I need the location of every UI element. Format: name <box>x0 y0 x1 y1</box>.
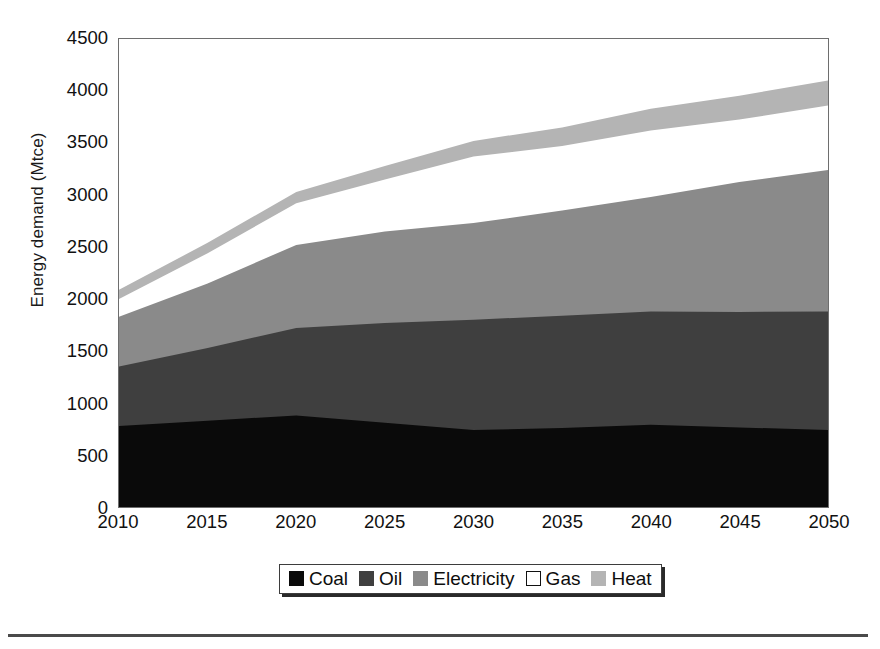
chart-legend: CoalOilElectricityGasHeat <box>279 564 662 594</box>
plot-area <box>118 38 829 508</box>
legend-item-coal[interactable]: Coal <box>289 569 348 588</box>
x-tick-label: 2020 <box>251 513 341 532</box>
legend-item-gas[interactable]: Gas <box>526 569 581 588</box>
stacked-area-svg <box>119 39 828 507</box>
x-tick-label: 2045 <box>695 513 785 532</box>
x-tick-label: 2035 <box>517 513 607 532</box>
y-tick-label: 2000 <box>46 290 108 309</box>
legend-item-electricity[interactable]: Electricity <box>413 569 514 588</box>
legend-swatch-oil-icon <box>359 571 374 586</box>
legend-item-oil[interactable]: Oil <box>359 569 402 588</box>
x-tick-label: 2050 <box>784 513 874 532</box>
x-tick-label: 2025 <box>340 513 430 532</box>
y-tick-label: 4500 <box>46 29 108 48</box>
y-tick-label: 500 <box>46 447 108 466</box>
y-tick-label: 3000 <box>46 185 108 204</box>
y-tick-label: 2500 <box>46 238 108 257</box>
legend-item-heat[interactable]: Heat <box>591 569 651 588</box>
legend-label: Gas <box>546 569 581 588</box>
x-tick-label: 2040 <box>606 513 696 532</box>
legend-label: Heat <box>611 569 651 588</box>
legend-label: Coal <box>309 569 348 588</box>
y-tick-label: 3500 <box>46 133 108 152</box>
legend-swatch-electricity-icon <box>413 571 428 586</box>
x-tick-label: 2030 <box>429 513 519 532</box>
y-axis-ticks: 050010001500200025003000350040004500 <box>42 0 108 649</box>
page-divider <box>8 634 868 637</box>
x-tick-label: 2015 <box>162 513 252 532</box>
legend-swatch-gas-icon <box>526 571 541 586</box>
legend-swatch-heat-icon <box>591 571 606 586</box>
energy-demand-area-chart: Energy demand (Mtce) 0500100015002000250… <box>0 0 880 649</box>
y-tick-label: 1500 <box>46 342 108 361</box>
y-tick-label: 1000 <box>46 394 108 413</box>
legend-swatch-coal-icon <box>289 571 304 586</box>
legend-label: Oil <box>379 569 402 588</box>
y-tick-label: 4000 <box>46 81 108 100</box>
x-tick-label: 2010 <box>73 513 163 532</box>
legend-label: Electricity <box>433 569 514 588</box>
